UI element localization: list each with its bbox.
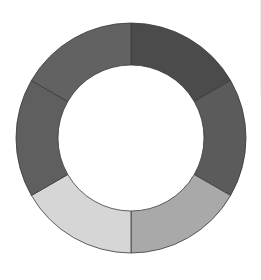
donut-chart xyxy=(0,0,261,280)
donut-slice xyxy=(194,81,246,196)
donut-slices xyxy=(16,23,246,253)
donut-slice xyxy=(16,81,68,196)
edge-divider xyxy=(260,0,261,95)
